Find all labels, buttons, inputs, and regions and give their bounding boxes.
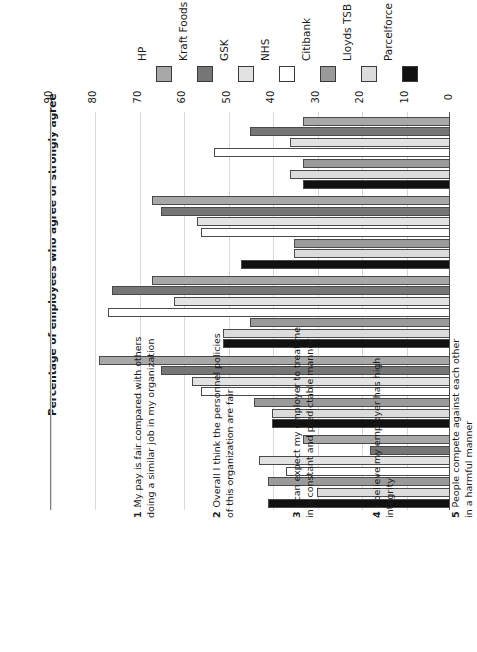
chart-legend: HPKraft FoodsGSKNHSCitibankLloyds TSBPar… <box>150 4 440 88</box>
category-number: 3 <box>291 511 302 518</box>
legend-label: Lloyds TSB <box>339 0 355 62</box>
bar <box>250 127 450 136</box>
category-label-line: of this organization are fair <box>224 389 235 518</box>
category-label-line: People compete against each other <box>450 339 461 508</box>
y-axis-tick-label: 50 <box>221 84 235 110</box>
bar-group <box>51 196 450 270</box>
category-label-line: Overall I think the personnel policies <box>211 333 222 507</box>
legend-label: Parcelforce <box>380 0 396 62</box>
legend-item: Parcelforce <box>396 4 430 88</box>
y-axis-tick-label: 60 <box>176 84 190 110</box>
bar <box>290 170 450 179</box>
legend-swatch-icon <box>320 66 336 82</box>
bar <box>254 398 450 407</box>
y-axis-tick-label: 90 <box>43 84 57 110</box>
category-number: 1 <box>132 511 143 518</box>
category-label: 1My pay is fair compared with othersdoin… <box>132 318 166 518</box>
legend-swatch-icon <box>279 66 295 82</box>
category-label: 4I believe my employer has highintegrity <box>371 318 405 518</box>
category-label-line: I believe my employer has high <box>371 358 382 508</box>
y-axis-tick-label: 70 <box>132 84 146 110</box>
bar <box>259 456 450 465</box>
y-axis-tick-label: 30 <box>310 84 324 110</box>
category-label: 5People compete against each otherin a h… <box>450 318 477 518</box>
bar <box>152 196 450 205</box>
category-label-line: doing a similar job in my organization <box>144 339 155 518</box>
legend-swatch-icon <box>361 66 377 82</box>
bar <box>152 276 450 285</box>
bar <box>250 318 450 327</box>
bar-group <box>51 117 450 191</box>
category-label-line: My pay is fair compared with others <box>132 337 143 508</box>
bar <box>294 249 450 258</box>
bar <box>201 228 450 237</box>
legend-swatch-icon <box>197 66 213 82</box>
y-axis-tick-label: 20 <box>354 84 368 110</box>
legend-label: Kraft Foods <box>175 0 191 62</box>
legend-label: GSK <box>216 0 232 62</box>
category-number: 5 <box>450 511 461 518</box>
y-axis-tick-label: 40 <box>265 84 279 110</box>
category-label: 3I can expect my employer to treat mein … <box>291 318 325 518</box>
bar <box>303 159 450 168</box>
bar <box>112 286 450 295</box>
category-label-line: in a harmful manner <box>463 421 474 518</box>
y-axis-tick-label: 80 <box>87 84 101 110</box>
category-label: 2Overall I think the personnel policieso… <box>211 318 245 518</box>
bar <box>108 308 450 317</box>
bar <box>223 329 450 338</box>
legend-label: NHS <box>257 0 273 62</box>
bar <box>303 117 450 126</box>
bar <box>294 239 450 248</box>
category-number: 4 <box>371 511 382 518</box>
bar <box>223 339 450 348</box>
legend-swatch-icon <box>238 66 254 82</box>
category-number: 2 <box>211 511 222 518</box>
category-label-line: in a constant and predictable manner <box>304 339 315 518</box>
category-label-line: I can expect my employer to treat me <box>291 327 302 507</box>
bar <box>161 207 450 216</box>
y-axis-tick-label: 0 <box>443 84 457 110</box>
bar <box>241 260 450 269</box>
bar <box>174 297 450 306</box>
category-label-line: integrity <box>383 478 394 518</box>
legend-swatch-icon <box>156 66 172 82</box>
legend-label: Citibank <box>298 0 314 62</box>
legend-label: HP <box>134 0 150 62</box>
bar <box>197 217 450 226</box>
bar <box>303 180 450 189</box>
legend-swatch-icon <box>402 66 418 82</box>
bar <box>214 148 450 157</box>
y-axis-tick-label: 10 <box>399 84 413 110</box>
bar <box>290 138 450 147</box>
